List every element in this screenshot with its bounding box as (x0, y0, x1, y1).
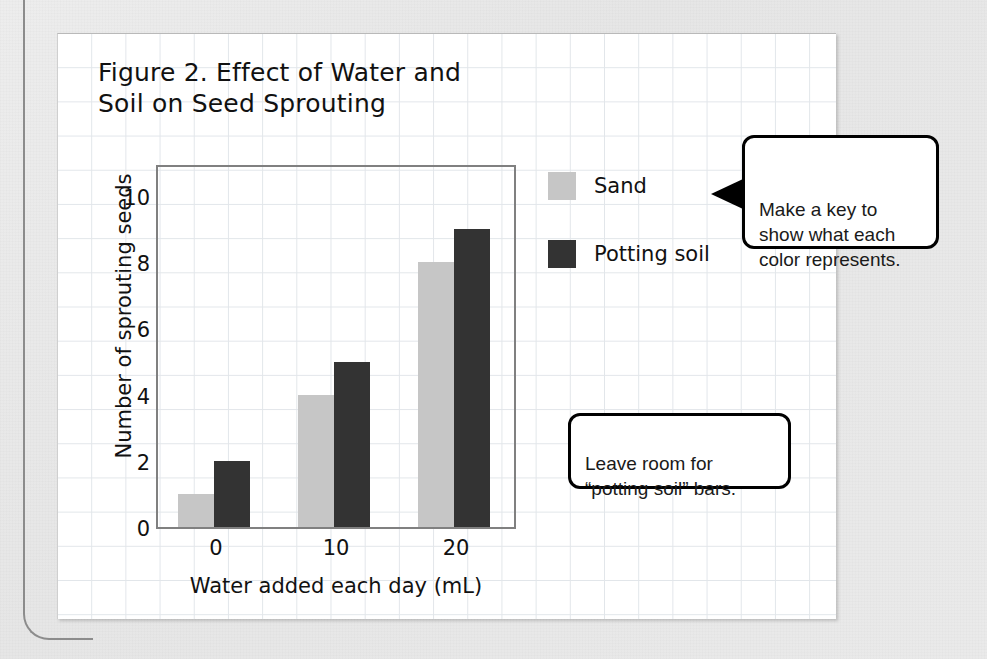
callout-room-text: Leave room for “potting soil” bars. (585, 453, 736, 499)
bar-sand (418, 262, 454, 527)
bar-sand (178, 494, 214, 527)
x-tick-label: 0 (186, 536, 246, 560)
callout-make-a-key: Make a key to show what each color repre… (742, 135, 939, 249)
bar-chart: Number of sprouting seeds 0246810 01020 … (58, 34, 836, 619)
x-axis-label: Water added each day (mL) (116, 574, 556, 598)
callout-leave-room: Leave room for “potting soil” bars. (568, 413, 791, 489)
legend-swatch-icon (548, 172, 576, 200)
y-tick-label: 8 (116, 252, 150, 276)
y-tick-label: 10 (116, 186, 150, 210)
x-tick-label: 10 (306, 536, 366, 560)
grid-paper-panel: Figure 2. Effect of Water and Soil on Se… (57, 33, 836, 619)
plot-area (156, 165, 516, 529)
x-tick-label: 20 (426, 536, 486, 560)
y-tick-label: 0 (116, 517, 150, 541)
y-tick-label: 2 (116, 451, 150, 475)
bar-potting-soil (454, 229, 490, 527)
bar-potting-soil (214, 461, 250, 527)
callout-key-text: Make a key to show what each color repre… (759, 199, 901, 270)
callout-pointer-icon (711, 179, 743, 209)
y-tick-label: 4 (116, 385, 150, 409)
bar-sand (298, 395, 334, 527)
x-axis-ticks: 01020 (156, 536, 516, 566)
bar-potting-soil (334, 362, 370, 527)
legend-label: Sand (594, 174, 647, 198)
textbook-page: Figure 2. Effect of Water and Soil on Se… (0, 0, 987, 659)
legend-swatch-icon (548, 240, 576, 268)
y-tick-label: 6 (116, 318, 150, 342)
legend-label: Potting soil (594, 242, 710, 266)
y-axis-ticks: 0246810 (110, 165, 150, 529)
